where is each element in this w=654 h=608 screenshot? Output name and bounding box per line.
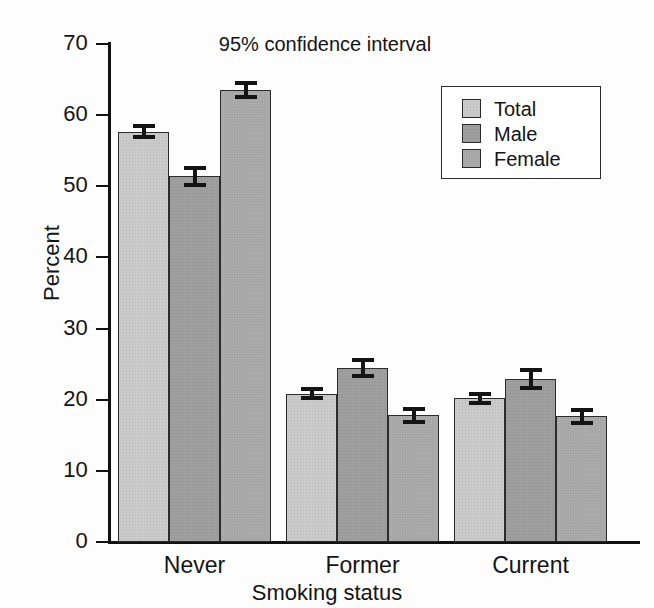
error-bar-former-female [388, 407, 439, 424]
legend-item-female: Female [462, 146, 600, 171]
x-axis-label-never: Never [115, 552, 275, 579]
legend-swatch-female [462, 149, 481, 168]
error-bar-never-female [220, 81, 271, 99]
error-bar-cap-top [469, 392, 491, 396]
legend-swatch-total [462, 99, 481, 118]
error-bar-cap-bottom [133, 135, 155, 139]
y-axis-tick-mark [96, 470, 109, 472]
x-axis-label-current: Current [451, 552, 611, 579]
error-bar-never-male [169, 166, 220, 187]
legend-item-total: Total [462, 96, 600, 121]
legend-swatch-male [462, 124, 481, 143]
error-bar-cap-top [520, 368, 542, 372]
x-axis-label-former: Former [283, 552, 443, 579]
error-bar-cap-top [352, 358, 374, 362]
bar-former-female [388, 415, 439, 542]
error-bar-cap-top [133, 124, 155, 128]
error-bar-cap-top [235, 81, 257, 85]
y-axis-tick-label: 0 [76, 530, 88, 552]
error-bar-never-total [118, 124, 169, 140]
error-bar-current-male [505, 368, 556, 390]
error-bar-former-male [337, 358, 388, 378]
error-bar-cap-top [301, 387, 323, 391]
error-bar-current-female [556, 408, 607, 426]
y-axis-tick-label: 60 [63, 103, 88, 125]
bar-former-total [286, 394, 337, 542]
error-bar-cap-top [403, 407, 425, 411]
error-bar-cap-bottom [235, 95, 257, 99]
y-axis-tick-mark [96, 328, 109, 330]
error-bar-cap-bottom [403, 420, 425, 424]
y-axis-tick-mark [96, 185, 109, 187]
bar-never-total [118, 132, 169, 542]
bar-current-female [556, 416, 607, 542]
y-axis-tick-label: 10 [63, 459, 88, 481]
error-bar-cap-bottom [184, 183, 206, 187]
error-bar-cap-top [184, 166, 206, 170]
legend-label-male: Male [494, 124, 537, 144]
legend-label-female: Female [494, 149, 561, 169]
legend: Total Male Female [441, 86, 601, 179]
chart-figure: 95% confidence interval 706050403020100 … [0, 0, 654, 608]
error-bar-cap-bottom [571, 421, 593, 425]
y-axis-tick-mark [96, 43, 109, 45]
error-bar-cap-top [571, 408, 593, 412]
error-bar-cap-bottom [352, 374, 374, 378]
bar-never-male [169, 176, 220, 542]
y-axis-tick-label: 40 [63, 245, 88, 267]
y-axis-title: Percent [39, 183, 65, 343]
legend-item-male: Male [462, 121, 600, 146]
legend-label-total: Total [494, 99, 536, 119]
y-axis-tick-mark [96, 399, 109, 401]
bar-former-male [337, 368, 388, 542]
y-axis-tick-mark [96, 114, 109, 116]
y-axis-tick-mark [96, 541, 109, 543]
y-axis-tick-label: 70 [63, 32, 88, 54]
error-bar-cap-bottom [520, 386, 542, 390]
error-bar-former-total [286, 387, 337, 401]
bar-current-male [505, 379, 556, 542]
y-axis-tick-label: 20 [63, 388, 88, 410]
x-axis-title: Smoking status [0, 580, 654, 606]
y-axis-tick-label: 30 [63, 317, 88, 339]
error-bar-cap-bottom [301, 396, 323, 400]
bar-current-total [454, 398, 505, 542]
y-axis-tick-mark [96, 256, 109, 258]
y-axis-tick-label: 50 [63, 174, 88, 196]
bar-never-female [220, 90, 271, 542]
error-bar-cap-bottom [469, 401, 491, 405]
error-bar-current-total [454, 392, 505, 405]
